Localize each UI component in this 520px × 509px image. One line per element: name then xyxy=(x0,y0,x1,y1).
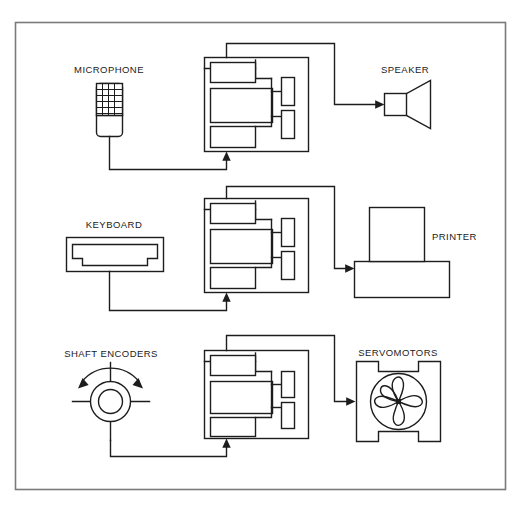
processor-block-icon-3 xyxy=(205,351,309,439)
label-speaker: SPEAKER xyxy=(381,64,429,75)
label-shaft-encoders: SHAFT ENCODERS xyxy=(64,348,158,359)
servomotor-rotor-icon xyxy=(357,362,441,442)
block-diagram: MICROPHONE SPEAKER KEYBOARD PRINTER SHAF… xyxy=(0,0,520,509)
microphone-grid-icon xyxy=(97,84,123,137)
keyboard-icon xyxy=(67,238,164,272)
processor-block-icon-1 xyxy=(205,58,309,152)
diagram-canvas: MICROPHONE SPEAKER KEYBOARD PRINTER SHAF… xyxy=(0,0,520,509)
processor-block-icon-2 xyxy=(205,199,309,293)
label-printer: PRINTER xyxy=(432,231,477,242)
label-servomotors: SERVOMOTORS xyxy=(358,347,438,358)
label-keyboard: KEYBOARD xyxy=(86,219,142,230)
label-microphone: MICROPHONE xyxy=(74,64,144,75)
